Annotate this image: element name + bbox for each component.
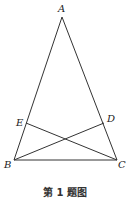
- segment-CE: [26, 123, 117, 160]
- point-label-B: B: [3, 159, 11, 170]
- point-label-C: C: [118, 159, 126, 170]
- point-label-D: D: [106, 113, 115, 124]
- geometry-figure: A B C D E: [0, 0, 130, 201]
- point-label-A: A: [57, 3, 65, 14]
- segment-BD: [14, 123, 104, 160]
- segment-AC: [62, 17, 117, 160]
- figure-caption: 第 1 题图: [0, 184, 130, 199]
- point-label-E: E: [15, 117, 24, 128]
- segment-AB: [14, 17, 62, 160]
